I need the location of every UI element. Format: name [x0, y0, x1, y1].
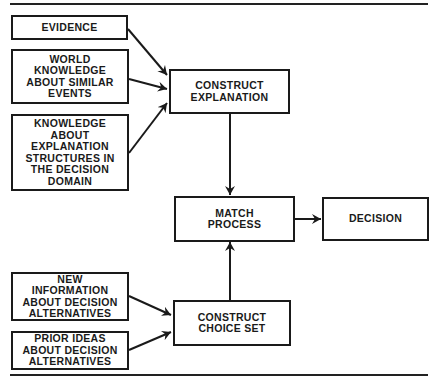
- node-new-information: NEW INFORMATION ABOUT DECISION ALTERNATI…: [11, 272, 129, 321]
- node-match-process: MATCH PROCESS: [174, 196, 295, 242]
- node-world-knowledge: WORLD KNOWLEDGE ABOUT SIMILAR EVENTS: [11, 49, 129, 104]
- arrow-evidence-to-explanation: [128, 29, 167, 75]
- arrow-world-to-explanation: [129, 79, 167, 89]
- node-prior-ideas: PRIOR IDEAS ABOUT DECISION ALTERNATIVES: [11, 331, 129, 370]
- node-construct-choice-set: CONSTRUCT CHOICE SET: [173, 300, 291, 346]
- arrow-newinfo-to-choiceset: [129, 296, 171, 315]
- node-evidence: EVIDENCE: [11, 15, 128, 40]
- node-explanation-knowledge: KNOWLEDGE ABOUT EXPLANATION STRUCTURES I…: [11, 114, 129, 191]
- arrow-prior-to-choiceset: [129, 332, 171, 350]
- arrow-knowledge-to-explanation: [129, 103, 167, 153]
- node-decision: DECISION: [322, 197, 429, 241]
- node-construct-explanation: CONSTRUCT EXPLANATION: [169, 69, 290, 114]
